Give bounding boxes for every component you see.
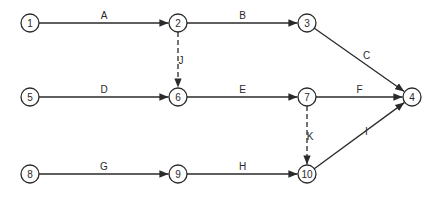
- edge-label-h: H: [239, 161, 246, 172]
- node-label: 2: [175, 18, 181, 29]
- nodes-layer: 12356748910: [21, 14, 421, 183]
- node-label: 6: [175, 92, 181, 103]
- node-10: 10: [298, 165, 316, 183]
- node-label: 8: [27, 169, 33, 180]
- edge-i: [314, 103, 404, 169]
- edges-layer: ABCJDEFKGHI: [39, 10, 404, 174]
- edge-label-a: A: [101, 10, 108, 21]
- node-label: 5: [27, 92, 33, 103]
- node-label: 7: [304, 92, 310, 103]
- edge-label-k: K: [307, 131, 314, 142]
- edge-label-e: E: [239, 84, 246, 95]
- node-label: 3: [304, 18, 310, 29]
- edge-label-d: D: [100, 84, 107, 95]
- edge-label-g: G: [100, 161, 108, 172]
- node-8: 8: [21, 165, 39, 183]
- edge-label-i: I: [365, 126, 368, 137]
- node-label: 10: [301, 169, 313, 180]
- node-2: 2: [169, 14, 187, 32]
- node-7: 7: [298, 88, 316, 106]
- diagram-svg: ABCJDEFKGHI 12356748910: [0, 0, 444, 199]
- edge-label-c: C: [363, 50, 370, 61]
- node-9: 9: [169, 165, 187, 183]
- network-diagram: ABCJDEFKGHI 12356748910: [0, 0, 444, 199]
- node-1: 1: [21, 14, 39, 32]
- node-3: 3: [298, 14, 316, 32]
- edge-c: [314, 28, 404, 91]
- edge-label-b: B: [239, 10, 246, 21]
- node-6: 6: [169, 88, 187, 106]
- edge-label-j: J: [179, 55, 184, 66]
- node-label: 4: [409, 92, 415, 103]
- node-label: 1: [27, 18, 33, 29]
- node-label: 9: [175, 169, 181, 180]
- edge-label-f: F: [356, 84, 362, 95]
- node-4: 4: [403, 88, 421, 106]
- node-5: 5: [21, 88, 39, 106]
